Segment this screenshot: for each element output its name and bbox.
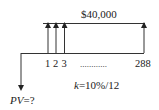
- rate-value: =10%/12: [79, 79, 119, 91]
- pv-symbol: PV: [9, 94, 25, 106]
- period-ellipsis: ............: [80, 59, 107, 69]
- period-label-2: 2: [53, 58, 58, 69]
- pv-value: =?: [23, 94, 34, 106]
- period-label-3: 3: [62, 58, 67, 69]
- pv-label: PV=?: [9, 94, 35, 106]
- rate-label: k=10%/12: [74, 79, 119, 91]
- period-label-1: 1: [45, 58, 50, 69]
- payment-arrows: [48, 25, 144, 53]
- cash-flow-diagram: $40,000 1 2 3 ............ 288 k=10%/12 …: [0, 0, 159, 110]
- period-label-288: 288: [135, 58, 151, 69]
- payment-amount-label: $40,000: [81, 8, 117, 20]
